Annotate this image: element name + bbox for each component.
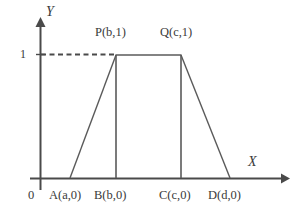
y-tick-label-1: 1 xyxy=(20,48,26,60)
x-axis-arrowhead xyxy=(281,174,290,184)
base-label-c: C(c,0) xyxy=(159,189,191,202)
figure-canvas xyxy=(0,0,292,213)
segment-q-to-d xyxy=(181,55,230,178)
trapezoid-membership-figure: Y X 1 P(b,1) Q(c,1) 0 A(a,0) B(b,0) C(c,… xyxy=(0,0,292,213)
base-label-b: B(b,0) xyxy=(94,189,126,202)
segment-a-to-p xyxy=(70,55,116,178)
vertex-label-p: P(b,1) xyxy=(95,26,126,39)
origin-label: 0 xyxy=(28,189,34,202)
base-label-d: D(d,0) xyxy=(208,189,241,202)
x-axis-label: X xyxy=(248,155,257,169)
vertex-label-q: Q(c,1) xyxy=(160,26,192,39)
y-axis-label: Y xyxy=(46,5,54,19)
base-label-a: A(a,0) xyxy=(49,189,81,202)
y-axis-arrowhead xyxy=(36,17,46,27)
